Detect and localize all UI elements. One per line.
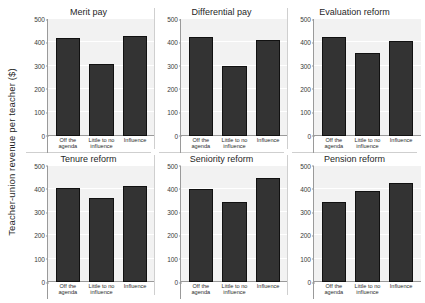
bar xyxy=(89,64,113,136)
plot-column: Off the agendaLittle to no influenceInfl… xyxy=(181,166,288,300)
y-tick-label: 400 xyxy=(300,185,311,192)
x-tick-label: Little to no influence xyxy=(219,137,249,153)
bar xyxy=(389,41,413,136)
y-tick-label: 400 xyxy=(34,39,45,46)
panel-tenure-reform: Tenure reform0100200300400500Off the age… xyxy=(22,153,155,300)
plot-area xyxy=(48,19,155,136)
panel-body: 0100200300400500Off the agendaLittle to … xyxy=(288,166,421,300)
y-tick-label: 400 xyxy=(167,185,178,192)
y-tick-label: 0 xyxy=(41,132,45,139)
y-tick-label: 100 xyxy=(167,109,178,116)
x-tick-label: Off the agenda xyxy=(319,283,349,299)
x-tick-label: Influence xyxy=(386,137,416,153)
y-tick-label: 200 xyxy=(34,85,45,92)
x-axis: Off the agendaLittle to no influenceInfl… xyxy=(314,136,421,153)
x-axis: Off the agendaLittle to no influenceInfl… xyxy=(181,136,288,153)
plot-area xyxy=(181,166,288,283)
x-tick-label: Influence xyxy=(253,137,283,153)
panel-evaluation-reform: Evaluation reform0100200300400500Off the… xyxy=(288,6,421,153)
y-tick-label: 100 xyxy=(300,109,311,116)
y-tick-label: 200 xyxy=(167,232,178,239)
y-axis: 0100200300400500 xyxy=(288,19,314,153)
bar xyxy=(322,202,346,282)
bar xyxy=(389,183,413,282)
y-axis: 0100200300400500 xyxy=(155,19,181,153)
x-tick-label: Off the agenda xyxy=(319,137,349,153)
panel-merit-pay: Merit pay0100200300400500Off the agendaL… xyxy=(22,6,155,153)
x-axis: Off the agendaLittle to no influenceInfl… xyxy=(181,282,288,299)
x-tick-label: Little to no influence xyxy=(352,283,382,299)
bar xyxy=(256,40,280,136)
bar xyxy=(355,191,379,282)
y-tick-label: 300 xyxy=(34,209,45,216)
bar xyxy=(322,37,346,135)
x-tick-label: Little to no influence xyxy=(86,137,116,153)
y-tick-label: 200 xyxy=(34,232,45,239)
y-tick-label: 100 xyxy=(167,255,178,262)
x-tick-label: Little to no influence xyxy=(352,137,382,153)
bar-group xyxy=(48,166,155,283)
y-tick-label: 200 xyxy=(300,232,311,239)
x-tick-label: Influence xyxy=(253,283,283,299)
plot-area xyxy=(314,19,421,136)
y-tick-label: 300 xyxy=(167,62,178,69)
bar xyxy=(355,53,379,135)
plot-area xyxy=(314,166,421,283)
y-tick-label: 0 xyxy=(174,279,178,286)
panel-pension-reform: Pension reform0100200300400500Off the ag… xyxy=(288,153,421,300)
y-tick-label: 0 xyxy=(41,279,45,286)
plot-area xyxy=(48,166,155,283)
figure-bar-chart-panels: Teacher-union revenue per teacher ($) Me… xyxy=(0,0,425,303)
panel-seniority-reform: Seniority reform0100200300400500Off the … xyxy=(155,153,288,300)
plot-column: Off the agendaLittle to no influenceInfl… xyxy=(314,19,421,153)
x-tick-label: Little to no influence xyxy=(219,283,249,299)
y-tick-label: 500 xyxy=(167,16,178,23)
y-tick-label: 100 xyxy=(300,255,311,262)
y-axis: 0100200300400500 xyxy=(288,166,314,300)
bar-group xyxy=(314,19,421,136)
y-axis-title: Teacher-union revenue per teacher ($) xyxy=(6,68,17,236)
y-tick-label: 200 xyxy=(167,85,178,92)
y-tick-label: 500 xyxy=(34,16,45,23)
y-axis: 0100200300400500 xyxy=(22,166,48,300)
x-axis: Off the agendaLittle to no influenceInfl… xyxy=(48,282,155,299)
y-tick-label: 100 xyxy=(34,255,45,262)
x-tick-label: Off the agenda xyxy=(186,283,216,299)
y-tick-label: 400 xyxy=(34,185,45,192)
x-axis: Off the agendaLittle to no influenceInfl… xyxy=(48,136,155,153)
bar xyxy=(189,189,213,282)
x-tick-label: Off the agenda xyxy=(53,283,83,299)
x-tick-label: Influence xyxy=(386,283,416,299)
y-axis: 0100200300400500 xyxy=(22,19,48,153)
bar xyxy=(256,178,280,282)
y-tick-label: 200 xyxy=(300,85,311,92)
y-tick-label: 0 xyxy=(174,132,178,139)
bar-group xyxy=(181,166,288,283)
y-tick-label: 300 xyxy=(300,209,311,216)
y-tick-label: 400 xyxy=(300,39,311,46)
bar-group xyxy=(48,19,155,136)
y-tick-label: 300 xyxy=(300,62,311,69)
y-axis-title-column: Teacher-union revenue per teacher ($) xyxy=(0,0,22,303)
panel-differential-pay: Differential pay0100200300400500Off the … xyxy=(155,6,288,153)
y-tick-label: 0 xyxy=(307,132,311,139)
plot-column: Off the agendaLittle to no influenceInfl… xyxy=(48,19,155,153)
bar xyxy=(123,36,147,135)
x-tick-label: Little to no influence xyxy=(86,283,116,299)
x-tick-label: Off the agenda xyxy=(53,137,83,153)
y-tick-label: 400 xyxy=(167,39,178,46)
panel-body: 0100200300400500Off the agendaLittle to … xyxy=(288,19,421,153)
plot-column: Off the agendaLittle to no influenceInfl… xyxy=(181,19,288,153)
y-tick-label: 500 xyxy=(167,162,178,169)
y-tick-label: 0 xyxy=(307,279,311,286)
bar xyxy=(89,198,113,282)
y-tick-label: 500 xyxy=(300,16,311,23)
bar xyxy=(222,202,246,282)
panel-body: 0100200300400500Off the agendaLittle to … xyxy=(155,19,288,153)
x-tick-label: Influence xyxy=(120,137,150,153)
y-tick-label: 100 xyxy=(34,109,45,116)
x-tick-label: Off the agenda xyxy=(186,137,216,153)
plot-column: Off the agendaLittle to no influenceInfl… xyxy=(314,166,421,300)
panel-grid: Merit pay0100200300400500Off the agendaL… xyxy=(22,0,425,303)
y-tick-label: 300 xyxy=(34,62,45,69)
